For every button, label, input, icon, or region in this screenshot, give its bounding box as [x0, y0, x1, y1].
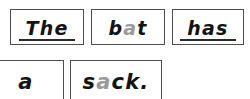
word-suffix: e	[54, 17, 68, 39]
word-card-the[interactable]: The	[10, 9, 84, 45]
word-prefix: b	[108, 17, 123, 39]
word-suffix: s	[216, 17, 229, 39]
word-card-text: has	[173, 19, 243, 38]
word-card-text: bat	[92, 19, 164, 38]
word-card-has[interactable]: has	[172, 9, 244, 45]
word-underline	[19, 39, 75, 41]
word-card-text: The	[11, 19, 83, 38]
word-highlight-letter: a	[96, 70, 111, 94]
word-card-sack[interactable]: sack.	[70, 60, 162, 99]
word-suffix: ck.	[112, 70, 150, 94]
word-card-row: a sack.	[0, 58, 250, 99]
word-prefix: s	[82, 70, 96, 94]
word-prefix: Th	[26, 17, 55, 39]
word-card-a[interactable]: a	[0, 60, 64, 99]
sentence-word-card-sheet: The bat has a sack.	[0, 0, 250, 99]
word-underline	[180, 39, 236, 41]
word-prefix: ha	[187, 17, 216, 39]
word-card-row: The bat has	[0, 7, 250, 51]
word-suffix: t	[137, 17, 147, 39]
word-prefix: a	[18, 70, 33, 94]
word-card-text: sack.	[71, 72, 161, 93]
word-highlight-letter: a	[123, 17, 137, 39]
word-card-text: a	[0, 72, 63, 93]
word-card-bat[interactable]: bat	[91, 9, 165, 45]
